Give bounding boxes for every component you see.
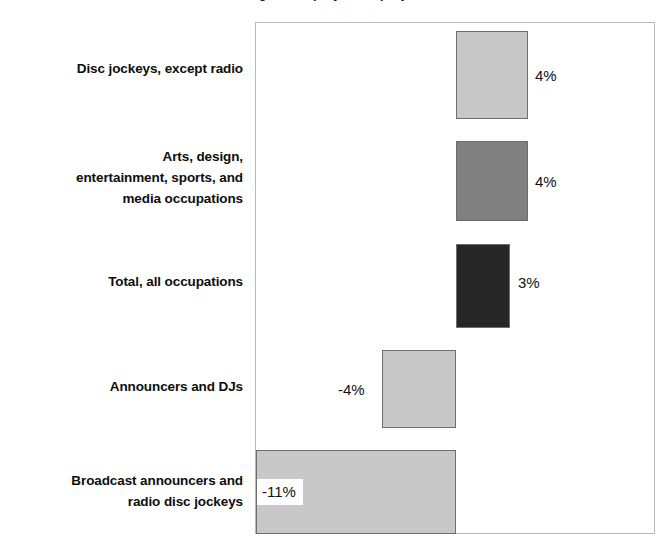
category-label: Disc jockeys, except radio: [0, 58, 243, 79]
bar-announcers-and-djs: [382, 350, 456, 428]
bar-chart: Percent change in employment, projected …: [0, 0, 668, 552]
bar-arts-design-entertainment-sports-media-occupations: [456, 141, 528, 221]
category-label: Total, all occupations: [0, 271, 243, 292]
bar-disc-jockeys-except-radio: [456, 31, 528, 119]
value-label-arts-design-entertainment-sports-media-occupations: 4%: [535, 174, 557, 189]
value-label-announcers-and-djs: -4%: [338, 382, 365, 397]
category-label: Announcers and DJs: [0, 376, 243, 397]
bar-total-all-occupations: [456, 244, 510, 328]
chart-title: Percent change in employment, projected …: [0, 0, 668, 1]
value-label-broadcast-announcers-and-radio-disc-jockeys: -11%: [257, 479, 303, 505]
value-label-total-all-occupations: 3%: [518, 275, 540, 290]
value-label-disc-jockeys-except-radio: 4%: [535, 68, 557, 83]
category-label: Arts, design, entertainment, sports, and…: [0, 146, 243, 209]
category-label: Broadcast announcers and radio disc jock…: [0, 470, 243, 512]
